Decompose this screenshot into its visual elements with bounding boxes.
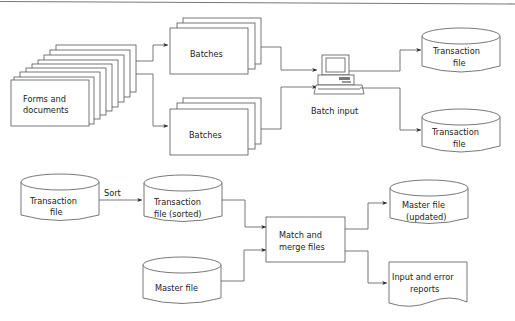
transaction-file-2-cylinder: Transaction file (422, 109, 500, 152)
arrow-input-to-transaction-2 (360, 88, 421, 130)
batches-top-stack: Batches (170, 18, 261, 74)
arrow-forms-to-batches-bottom (136, 74, 168, 126)
sort-label: Sort (104, 188, 122, 198)
reports-document: Input and error reports (389, 262, 467, 306)
master-file-label: Master file (155, 283, 198, 293)
batches-top-label: Batches (190, 49, 223, 59)
master-updated-label-2: (updated) (406, 212, 446, 222)
forms-documents-stack: Forms and documents (11, 45, 136, 126)
forms-label-2: documents (23, 105, 69, 115)
match-merge-label-1: Match and (279, 230, 322, 240)
batches-bottom-label: Batches (189, 130, 222, 140)
batches-bottom-stack: Batches (170, 98, 261, 155)
arrow-forms-to-batches-top (136, 45, 168, 61)
arrow-input-to-transaction-1 (349, 50, 421, 71)
transaction-file-1-label-2: file (453, 58, 465, 68)
reports-label-2: reports (410, 284, 439, 294)
master-updated-label-1: Master file (402, 200, 445, 210)
batch-input-label: Batch input (311, 106, 359, 116)
transaction-sorted-cylinder: Transaction file (sorted) (144, 175, 222, 222)
match-merge-label-2: merge files (279, 242, 325, 252)
master-updated-cylinder: Master file (updated) (390, 180, 468, 224)
arrow-merge-to-master-updated (345, 203, 387, 229)
transaction-file-2-label-1: Transaction (431, 127, 479, 137)
transaction-file-cylinder: Transaction file (21, 174, 99, 221)
transaction-sorted-label-1: Transaction (153, 197, 201, 207)
transaction-file-label-1: Transaction (29, 196, 77, 206)
top-border (0, 2, 515, 5)
reports-label-1: Input and error (392, 272, 454, 282)
transaction-file-2-label-2: file (453, 139, 465, 149)
arrow-sorted-to-merge (222, 200, 266, 227)
forms-label-1: Forms and (23, 94, 66, 104)
flowchart-canvas: Forms and documents Batches Batches Batc… (0, 0, 515, 321)
arrow-merge-to-reports (345, 251, 387, 283)
master-file-cylinder: Master file (143, 257, 221, 304)
transaction-file-1-label-1: Transaction (432, 46, 480, 56)
transaction-file-1-cylinder: Transaction file (422, 28, 500, 72)
arrow-batches-bottom-to-input (261, 87, 317, 129)
transaction-file-label-2: file (50, 207, 62, 217)
transaction-sorted-label-2: file (sorted) (154, 209, 202, 219)
arrow-master-to-merge (221, 250, 266, 281)
computer-terminal-icon (314, 55, 364, 94)
match-merge-box: Match and merge files (266, 217, 345, 262)
arrow-batches-top-to-input (261, 47, 317, 70)
